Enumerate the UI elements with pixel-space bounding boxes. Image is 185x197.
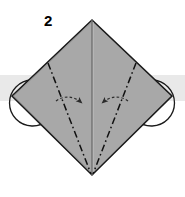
diagram-canvas <box>0 0 185 197</box>
origami-step-diagram: 2 <box>0 0 185 197</box>
